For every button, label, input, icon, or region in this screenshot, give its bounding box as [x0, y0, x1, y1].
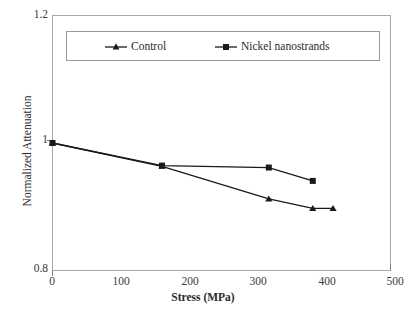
data-series-layer: [49, 140, 337, 211]
data-point-square: [159, 163, 165, 169]
triangle-marker-icon: [105, 41, 127, 53]
data-point-square: [266, 165, 272, 171]
legend-entry-control: Control: [105, 40, 166, 54]
legend-label-nickel: Nickel nanostrands: [241, 41, 329, 53]
chart-figure: 1.2 1 0.8 0 100 200 300 400 500 Stress (…: [0, 0, 406, 313]
x-axis-tick-label-100: 100: [104, 276, 138, 288]
x-axis-tick-label-400: 400: [310, 276, 344, 288]
axis-ticks: [47, 141, 391, 277]
legend: Control Nickel nanostrands: [66, 31, 380, 61]
x-axis-tick-label-200: 200: [173, 276, 207, 288]
legend-entry-nickel: Nickel nanostrands: [215, 40, 329, 54]
square-marker-icon: [215, 41, 237, 53]
y-axis-title: Normalized Attenuation: [21, 66, 33, 236]
x-axis-tick-label-500: 500: [378, 276, 406, 288]
y-axis-tick-label-top: 1.2: [8, 9, 48, 21]
x-axis-tick-label-300: 300: [241, 276, 275, 288]
y-axis-tick-label-bottom: 0.8: [8, 263, 48, 275]
series-nickel-nanostrands: [50, 140, 316, 184]
series-line: [53, 143, 313, 181]
data-point-square: [50, 140, 56, 146]
x-axis-tick-label-0: 0: [35, 276, 69, 288]
legend-label-control: Control: [131, 41, 166, 53]
data-point-square: [310, 178, 316, 184]
series-line: [53, 143, 334, 208]
x-axis-title: Stress (MPa): [0, 292, 406, 304]
